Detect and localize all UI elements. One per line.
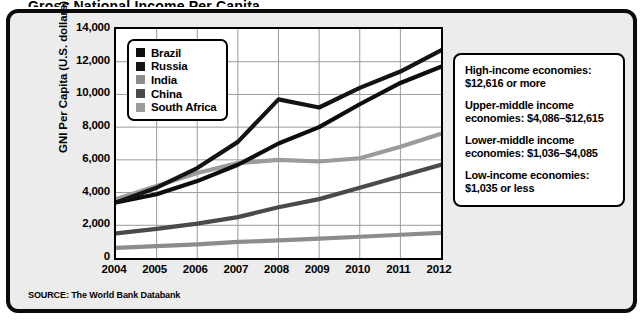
income-class-text: Low-income economies: $1,035 or less — [465, 169, 613, 195]
legend-swatch-brazil — [136, 48, 145, 57]
figure-root: Gross National Income Per Capita GNI Per… — [0, 0, 643, 323]
legend-item-label: Russia — [151, 60, 188, 72]
y-tick-label: 6,000 — [56, 152, 110, 164]
legend-swatch-russia — [136, 62, 145, 71]
x-tick-label: 2004 — [102, 263, 127, 275]
legend-swatch-india — [136, 75, 145, 84]
legend-item-south-africa[interactable]: South Africa — [136, 100, 217, 114]
x-tick-label: 2005 — [142, 263, 167, 275]
legend-item-brazil[interactable]: Brazil — [136, 46, 217, 60]
legend-swatch-china — [136, 89, 145, 98]
x-tick-label: 2010 — [345, 263, 370, 275]
x-tick-label: 2009 — [305, 263, 330, 275]
figure-panel: GNI Per Capita (U.S. dollars) 02,0004,00… — [6, 9, 637, 313]
y-tick-label: 2,000 — [56, 217, 110, 229]
x-tick-label: 2007 — [223, 263, 248, 275]
legend-item-russia[interactable]: Russia — [136, 60, 217, 74]
y-tick-label: 4,000 — [56, 185, 110, 197]
legend-swatch-south-africa — [136, 103, 145, 112]
x-tick-label: 2006 — [183, 263, 208, 275]
y-tick-label: 8,000 — [56, 119, 110, 131]
legend-item-label: South Africa — [151, 101, 217, 113]
income-classification-box: High-income economies: $12,616 or moreUp… — [453, 53, 625, 207]
source-note: SOURCE: The World Bank Databank — [28, 290, 180, 300]
income-class-text: High-income economies: $12,616 or more — [465, 64, 613, 90]
x-tick-label: 2008 — [264, 263, 289, 275]
income-class-item-3: Low-income economies: $1,035 or less — [465, 169, 613, 195]
x-tick-label: 2011 — [386, 263, 410, 275]
y-tick-label: 12,000 — [56, 54, 110, 66]
y-tick-label: 14,000 — [56, 21, 110, 33]
income-class-text: Upper-middle income economies: $4,086–$1… — [465, 99, 613, 125]
y-axis-ticks: 02,0004,0006,0008,00010,00012,00014,000 — [48, 15, 110, 287]
income-class-item-2: Lower-middle income economies: $1,036–$4… — [465, 134, 613, 160]
x-axis-ticks: 200420052006200720082009201020112012 — [114, 263, 444, 283]
plot-block: GNI Per Capita (U.S. dollars) 02,0004,00… — [22, 15, 442, 287]
income-class-text: Lower-middle income economies: $1,036–$4… — [465, 134, 613, 160]
legend-item-india[interactable]: India — [136, 73, 217, 87]
chart-legend: BrazilRussiaIndiaChinaSouth Africa — [127, 39, 228, 121]
legend-item-china[interactable]: China — [136, 87, 217, 101]
income-class-item-0: High-income economies: $12,616 or more — [465, 64, 613, 90]
legend-item-label: Brazil — [151, 47, 181, 59]
y-tick-label: 0 — [56, 250, 110, 262]
legend-item-label: China — [151, 88, 182, 100]
x-tick-label: 2012 — [427, 263, 452, 275]
y-tick-label: 10,000 — [56, 86, 110, 98]
legend-item-label: India — [151, 74, 177, 86]
income-class-item-1: Upper-middle income economies: $4,086–$1… — [465, 99, 613, 125]
figure-title-clipped: Gross National Income Per Capita — [0, 0, 643, 7]
